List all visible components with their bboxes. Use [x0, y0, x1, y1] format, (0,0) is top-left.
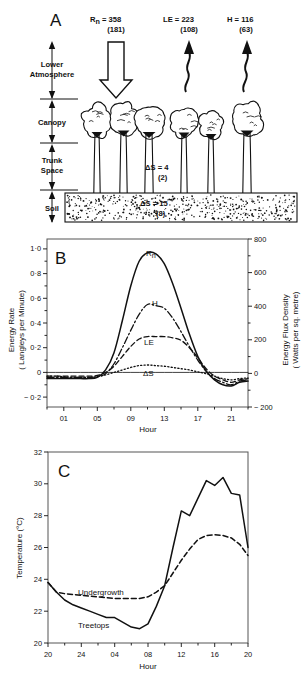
storage-label-soil: ΔS = 15	[140, 199, 168, 208]
panel-b-xtick-label: 09	[127, 414, 135, 423]
panel-b-letter: B	[55, 249, 66, 268]
panel-c-xlabel: Hour	[139, 662, 157, 671]
flux-le-paren: (108)	[180, 25, 198, 34]
flux-le-symbol: LE = 223	[163, 15, 194, 24]
panel-c-xtick-label: 20	[244, 650, 252, 659]
panel-c-ytick-label: 26	[34, 543, 42, 552]
panel-b-ytick-left-label: 1·0	[30, 244, 41, 253]
panel-b-xtick-label: 05	[93, 414, 101, 423]
panel-b-xtick-label: 21	[227, 414, 235, 423]
panel-c-xtick-label: 24	[77, 650, 85, 659]
storage-label-trunk: ΔS = 4	[145, 163, 169, 172]
panel-c-xtick-label: 16	[211, 650, 219, 659]
panel-c-curve-label-treetops: Treetops	[78, 621, 109, 630]
figure-root: A Rn = 358 (181) LE = 223 (108) H = 116 …	[0, 0, 306, 686]
panel-b-curve-label-h: H	[152, 299, 158, 308]
panel-b-ylabel-right-1: Energy Flux Density	[281, 294, 290, 366]
panel-b-xlabel: Hour	[139, 425, 157, 434]
panel-c-xtick-label: 20	[44, 650, 52, 659]
panel-b-ytick-left-label: 0·2	[30, 343, 41, 352]
panel-b-ytick-right-label: 0	[254, 369, 258, 378]
panel-b-ytick-left-label: 0	[37, 368, 41, 377]
panel-b-ytick-right-label: − 200	[254, 403, 273, 412]
panel-b-ylabel-2: ( Langleys per Minute)	[17, 290, 26, 370]
panel-a-letter: A	[50, 11, 62, 30]
panel-b-ytick-right-label: 800	[254, 235, 266, 244]
panel-c-ytick-label: 24	[34, 575, 42, 584]
panel-c-xtick-label: 08	[144, 650, 152, 659]
panel-b-ytick-left-label: − 0·2	[24, 393, 41, 402]
panel-c-ytick-label: 28	[34, 511, 42, 520]
panel-b-ytick-left-label: 0·8	[30, 269, 41, 278]
panel-b-ytick-right-label: 200	[254, 335, 266, 344]
panel-b-ylabel-right-2: ( Watts per sq. metre)	[291, 291, 300, 368]
layer-label-lower-atmosphere-1: Lower	[41, 60, 63, 69]
panel-c-ytick-label: 30	[34, 479, 42, 488]
panel-b-curve-label-ds: ΔS	[143, 369, 154, 378]
panel-c-ylabel: Temperature (°C)	[15, 517, 24, 579]
layer-label-trunk-2: Space	[41, 166, 63, 175]
panel-b-xtick-label: 01	[60, 414, 68, 423]
panel-c-ytick-label: 22	[34, 607, 42, 616]
panel-b-ytick-right-label: 400	[254, 302, 266, 311]
panel-b-xtick-label: 13	[160, 414, 168, 423]
layer-label-lower-atmosphere-2: Atmosphere	[30, 70, 74, 79]
panel-b-curve-label-le: LE	[144, 338, 154, 347]
layer-label-trunk-1: Trunk	[42, 156, 63, 165]
panel-b-xtick-label: 17	[194, 414, 202, 423]
flux-rn-paren: (181)	[107, 25, 125, 34]
panel-c-xtick-label: 04	[111, 650, 119, 659]
storage-label-soil-paren: (8)	[156, 209, 166, 218]
panel-b-ylabel-1: Energy Rate	[7, 307, 16, 352]
layer-label-canopy: Canopy	[38, 118, 67, 127]
panel-b-ytick-left-label: 0·4	[30, 319, 41, 328]
flux-h-paren: (63)	[239, 25, 253, 34]
flux-h-symbol: H = 116	[227, 15, 253, 24]
storage-label-trunk-paren: (2)	[158, 173, 168, 182]
panel-b-ytick-left-label: 0·6	[30, 294, 41, 303]
panel-c-ytick-label: 20	[34, 639, 42, 648]
panel-c-letter: C	[58, 462, 70, 481]
panel-b-ytick-right-label: 600	[254, 268, 266, 277]
panel-c-ytick-label: 32	[34, 448, 42, 457]
panel-c-xtick-label: 12	[177, 650, 185, 659]
layer-label-soil: Soil	[45, 204, 59, 213]
panel-c-curve-label-undergrowth: Undergrowth	[78, 588, 124, 597]
